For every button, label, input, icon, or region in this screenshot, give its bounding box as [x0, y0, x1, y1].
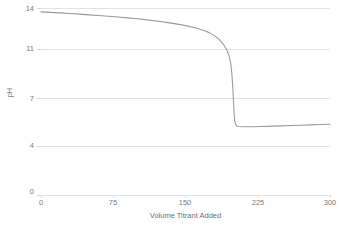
x-tick-label-75: 75	[98, 198, 128, 207]
plot-area	[41, 8, 330, 195]
x-tick-label-150: 150	[170, 198, 200, 207]
y-tick-label-4: 4	[10, 141, 34, 150]
y-tick-label-0: 0	[10, 187, 34, 196]
x-tick-label-0: 0	[26, 198, 56, 207]
x-tick-label-225: 225	[243, 198, 273, 207]
y-tick-label-11: 11	[10, 44, 34, 53]
y-tick-label-7: 7	[10, 94, 34, 103]
x-axis-title: Volume Titrant Added	[41, 211, 330, 220]
y-tick-label-14: 14	[10, 4, 34, 13]
x-tick-label-300: 300	[315, 198, 343, 207]
titration-curve	[41, 8, 330, 195]
curve-polyline	[41, 12, 330, 127]
titration-chart: Titration Curve for 0.1 M Strong Base wi…	[0, 0, 343, 227]
